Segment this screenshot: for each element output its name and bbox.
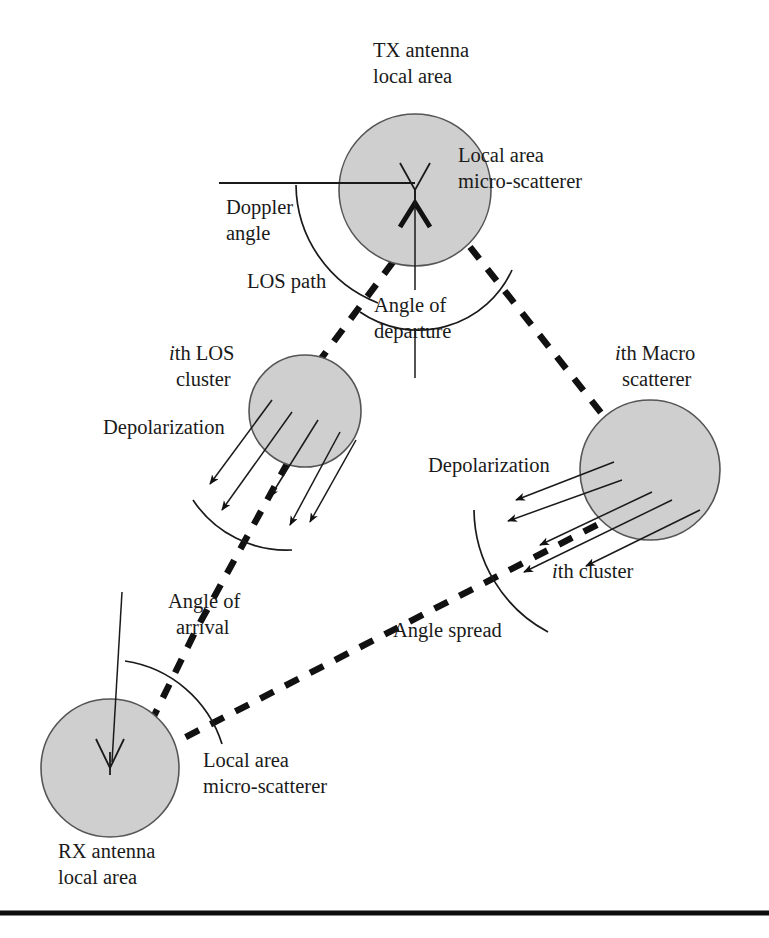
label-rx-micro-scatterer-line2: micro-scatterer: [203, 775, 327, 797]
label-tx-micro-scatterer-line2: micro-scatterer: [458, 170, 582, 192]
label-ith-cluster: ith cluster: [552, 560, 634, 582]
label-depolarization-left: Depolarization: [103, 416, 225, 439]
label-ith-macro-scatterer-line1: ith Macro: [615, 342, 695, 364]
label-angle-spread: Angle spread: [393, 619, 502, 642]
label-rx-antenna-line2: local area: [58, 866, 137, 888]
macro-scatterer-circle: [580, 400, 720, 540]
label-ith-los-cluster-line1: ith LOS: [169, 342, 235, 364]
label-rx-antenna-line1: RX antenna: [58, 840, 155, 862]
label-tx-micro-scatterer-line1: Local area: [458, 144, 544, 166]
label-doppler-angle-line2: angle: [226, 222, 270, 245]
label-ith-macro-scatterer-rest: th Macro: [621, 342, 696, 364]
label-angle-of-departure-line1: Angle of: [374, 294, 446, 317]
figure-root: TX antenna local area Local area micro-s…: [0, 0, 769, 938]
label-ith-cluster-rest: th cluster: [558, 560, 634, 582]
label-rx-micro-scatterer-line1: Local area: [203, 749, 289, 771]
label-doppler-angle-line1: Doppler: [226, 196, 293, 219]
label-depolarization-right: Depolarization: [428, 454, 550, 477]
label-angle-of-arrival-line1: Angle of: [168, 590, 240, 613]
label-angle-of-arrival-line2: arrival: [176, 616, 230, 638]
label-los-path: LOS path: [247, 270, 326, 293]
label-ith-macro-scatterer-line2: scatterer: [622, 368, 692, 390]
los-cluster-circle: [249, 355, 361, 467]
label-tx-antenna-line2: local area: [373, 65, 452, 87]
label-ith-los-cluster-rest: th LOS: [175, 342, 235, 364]
label-tx-antenna-line1: TX antenna: [373, 39, 469, 61]
label-angle-of-departure-line2: departure: [374, 320, 451, 343]
label-ith-los-cluster-line2: cluster: [176, 368, 231, 390]
scattering-diagram: TX antenna local area Local area micro-s…: [0, 0, 769, 938]
